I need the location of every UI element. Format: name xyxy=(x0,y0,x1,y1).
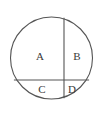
region-label-b: B xyxy=(73,50,80,62)
circle-partition-diagram: A B C D xyxy=(0,0,103,118)
region-label-d: D xyxy=(68,83,76,95)
region-label-a: A xyxy=(36,50,44,62)
geometry-figure: A B C D xyxy=(0,0,103,118)
region-label-c: C xyxy=(38,83,45,95)
